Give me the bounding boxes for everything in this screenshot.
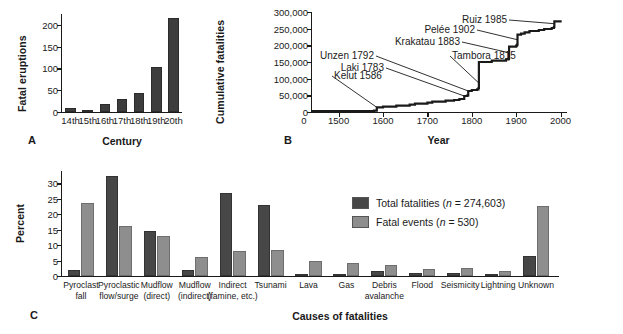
panel-a-x-tick-label: 14th	[61, 115, 80, 126]
panel-c-y-tick-label: 10	[47, 240, 58, 251]
panel-c-x-tick-label: Unknown	[518, 280, 554, 291]
panel-a-y-tick-label: 50	[47, 85, 58, 96]
panel-c-y-tick-label: 0	[53, 271, 58, 282]
panel-c-bar-total	[485, 274, 498, 276]
panel-b-annotation-label: Tambora 1815	[452, 50, 516, 61]
panel-b-x-tick-label: 2000	[550, 115, 571, 126]
panel-b-y-tick-label: 200,000	[274, 40, 308, 51]
panel-c-bar-events	[119, 226, 132, 276]
panel-c-y-axis-label: Percent	[14, 204, 26, 243]
panel-b-cumulative-fatalities: Cumulative fatalities 050,000100,000150,…	[200, 0, 623, 155]
panel-b-plot-area: 050,000100,000150,000200,000250,000300,0…	[312, 12, 565, 112]
panel-c-x-tick-label: Lava	[299, 280, 318, 291]
panel-a-y-tick-label: 0	[53, 107, 58, 118]
panel-b-annotation-label: Krakatau 1883	[395, 36, 460, 47]
panel-c-x-tick-label: Gas	[339, 280, 355, 291]
panel-c-bar-events	[385, 265, 398, 276]
panel-c-bar-events	[81, 203, 94, 277]
panel-b-y-axis-label: Cumulative fatalities	[214, 20, 226, 124]
panel-a-bar	[168, 18, 179, 112]
panel-c-x-tick-label: Mudflow(direct)	[141, 280, 173, 301]
panel-c-bar-events	[157, 236, 170, 276]
panel-c-bar-total	[333, 274, 346, 276]
panel-c-x-tick-label: Tsunami	[255, 280, 287, 291]
panel-c-x-tick-label: Mudflow(indirect)	[178, 280, 211, 301]
panel-c-bar-events	[271, 250, 284, 276]
panel-c-bar-total	[258, 205, 271, 276]
panel-b-x-origin-label: 0	[301, 115, 306, 126]
panel-a-x-tick-label: 20th	[164, 115, 183, 126]
panel-b-annotation-label: Pelée 1902	[424, 24, 475, 35]
panel-a-plot-area: 05010015020014th15th16th17th18th19th20th	[62, 14, 182, 112]
panel-c-bar-total	[295, 274, 308, 276]
panel-c-y-tick-label: 25	[47, 193, 58, 204]
panel-c-bar-events	[423, 269, 436, 276]
panel-c-y-tick-label: 20	[47, 209, 58, 220]
panel-b-x-tick-label: 1800	[461, 115, 482, 126]
panel-c-letter: C	[30, 309, 38, 321]
panel-a-bar	[117, 99, 128, 112]
panel-a-y-tick-label: 100	[42, 63, 58, 74]
panel-a-fatal-eruptions: Fatal eruptions 05010015020014th15th16th…	[0, 0, 200, 155]
panel-c-bar-events	[309, 261, 322, 276]
panel-a-x-axis-label: Century	[62, 135, 182, 147]
panel-c-bar-events	[499, 271, 512, 276]
panel-a-y-tick-label: 150	[42, 41, 58, 52]
panel-c-legend: Total fatalities (n = 274,603)Fatal even…	[352, 195, 505, 233]
panel-c-bar-total	[220, 193, 233, 276]
panel-a-x-tick-label: 19th	[147, 115, 166, 126]
panel-c-x-tick-label: Seismicity	[441, 280, 480, 291]
panel-b-x-tick-label: 1600	[372, 115, 393, 126]
panel-c-bar-events	[195, 257, 208, 276]
panel-a-y-axis-label: Fatal eruptions	[16, 35, 28, 112]
panel-c-x-tick-label: Pyroclasticflow/surge	[98, 280, 140, 301]
panel-c-bar-total	[144, 231, 157, 276]
panel-a-bar	[65, 108, 76, 112]
panel-c-bar-total	[182, 270, 195, 276]
panel-c-legend-label: Fatal events (n = 530)	[376, 214, 478, 230]
panel-a-y-tick-label: 200	[42, 19, 58, 30]
panel-c-legend-item: Fatal events (n = 530)	[352, 214, 505, 230]
panel-a-x-tick-label: 16th	[96, 115, 115, 126]
panel-b-y-tick-label: 100,000	[274, 73, 308, 84]
panel-a-bar	[82, 110, 93, 112]
panel-b-annotation-label: Unzen 1792	[320, 50, 374, 61]
panel-c-x-tick-label: Pyroclastfall	[63, 280, 98, 301]
panel-c-x-axis-label: Causes of fatalities	[250, 310, 430, 322]
panel-c-bar-total	[68, 270, 81, 276]
panel-c-bar-total	[409, 273, 422, 276]
panel-b-x-tick-label: 1500	[328, 115, 349, 126]
panel-a-bar	[100, 104, 111, 112]
panel-c-x-tick-label: Flood	[412, 280, 434, 291]
panel-a-x-tick-label: 15th	[78, 115, 97, 126]
panel-c-bar-total	[447, 273, 460, 276]
panel-c-legend-swatch	[352, 197, 369, 209]
panel-c-x-tick-label: Lightning	[481, 280, 516, 291]
panel-b-y-tick-label: 300,000	[274, 7, 308, 18]
panel-a-letter: A	[28, 134, 36, 146]
panel-c-x-tick-label: Debrisavalanche	[365, 280, 404, 301]
panel-c-legend-item: Total fatalities (n = 274,603)	[352, 195, 505, 211]
panel-c-y-tick-label: 5	[53, 255, 58, 266]
panel-c-bar-events	[347, 263, 360, 276]
panel-c-bar-total	[523, 256, 536, 276]
panel-b-y-tick-label: 250,000	[274, 23, 308, 34]
panel-c-x-tick-label: Indirect(famine, etc.)	[208, 280, 258, 301]
panel-b-letter: B	[284, 134, 292, 146]
panel-c-y-tick-label: 30	[47, 178, 58, 189]
panel-b-x-tick-label: 1700	[417, 115, 438, 126]
panel-b-y-tick-label: 150,000	[274, 57, 308, 68]
panel-a-x-tick-label: 18th	[130, 115, 149, 126]
panel-c-bar-total	[371, 271, 384, 276]
panel-c-bar-events	[537, 206, 550, 276]
panel-b-x-tick-label: 1900	[506, 115, 527, 126]
panel-c-plot-area: Total fatalities (n = 274,603)Fatal even…	[62, 171, 555, 276]
panel-b-x-axis-label: Year	[312, 134, 565, 146]
panel-c-bar-events	[461, 268, 474, 276]
panel-c-bar-total	[106, 176, 119, 276]
panel-c-bar-events	[233, 251, 246, 276]
panel-b-annotation-label: Ruiz 1985	[462, 14, 507, 25]
panel-a-bar	[134, 93, 145, 112]
panel-a-bar	[151, 67, 162, 112]
panel-c-causes-of-fatalities: Percent Total fatalities (n = 274,603)Fa…	[0, 155, 623, 334]
